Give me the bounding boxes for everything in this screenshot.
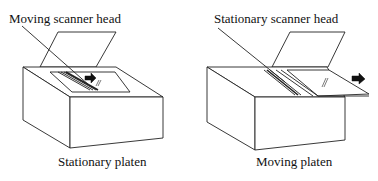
left-lid <box>40 32 116 67</box>
left-caption: Stationary platen <box>58 155 146 168</box>
scanner-diagram: Moving scanner head Stationary platen St… <box>0 0 378 181</box>
left-scanner-illustration <box>22 26 163 148</box>
right-direction-arrow <box>352 73 365 84</box>
right-lid <box>272 32 345 67</box>
right-scanner-illustration <box>207 28 369 150</box>
right-caption: Moving platen <box>256 155 332 168</box>
left-box-front <box>70 97 163 148</box>
right-box-front <box>255 97 345 150</box>
left-head-label: Moving scanner head <box>9 12 121 25</box>
right-head-label: Stationary scanner head <box>214 12 338 25</box>
